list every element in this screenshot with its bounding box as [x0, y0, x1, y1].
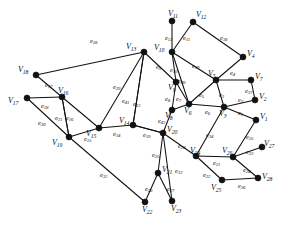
vertex-label-V9: V9	[168, 84, 176, 92]
graph-vertex-V4	[240, 54, 246, 60]
edge-label-e26: e26	[145, 186, 152, 193]
edge-label-e34: e34	[206, 132, 213, 139]
edge-label-e35: e35	[246, 134, 253, 141]
graph-edge-e21	[196, 156, 233, 157]
edge-label-e2: e2	[238, 97, 243, 104]
edge-label-e22: e22	[203, 172, 210, 179]
edge-label-e17: e17	[45, 82, 52, 89]
graph-vertex-V7	[248, 77, 254, 83]
edge-label-e7: e7	[176, 96, 181, 103]
vertex-label-V10: V10	[154, 44, 164, 52]
edge-label-e11: e11	[183, 35, 190, 42]
vertex-label-V1: V1	[260, 113, 268, 121]
edge-label-e5: e5	[199, 92, 204, 99]
vertex-label-V7: V7	[255, 73, 263, 81]
graph-vertex-V12	[190, 19, 196, 25]
vertex-label-V24: V24	[190, 147, 200, 155]
edge-label-e27: e27	[167, 186, 174, 193]
graph-vertex-V13	[141, 49, 147, 55]
vertex-label-V11: V11	[168, 10, 178, 18]
vertex-label-V6: V6	[184, 107, 192, 115]
vertex-label-V19: V19	[52, 139, 62, 147]
vertex-label-V20: V20	[167, 126, 177, 134]
graph-edge-e28	[36, 52, 144, 75]
graph-vertex-V1	[253, 117, 259, 123]
vertex-label-V27: V27	[264, 140, 274, 148]
graph-vertex-V19	[66, 134, 72, 140]
graph-edge-e6	[189, 104, 224, 107]
edge-label-e24: e24	[243, 167, 250, 174]
vertices-layer	[24, 18, 265, 205]
graph-vertex-V18	[33, 72, 39, 78]
edge-label-e14: e14	[113, 131, 120, 138]
edge-label-e12: e12	[165, 35, 172, 42]
edge-label-e40: e40	[178, 78, 185, 85]
edge-label-e42: e42	[158, 118, 165, 125]
graph-edge-e38	[193, 22, 243, 57]
edge-label-e39: e39	[192, 63, 199, 70]
vertex-label-V14: V14	[119, 117, 129, 125]
edge-label-e30: e30	[38, 120, 45, 127]
graph-edge-e41	[133, 52, 144, 125]
graph-canvas	[0, 0, 288, 226]
vertex-label-V3: V3	[219, 110, 227, 118]
graph-edge-e36	[222, 178, 258, 180]
vertex-label-V16: V16	[58, 87, 68, 95]
edge-label-e15: e15	[84, 136, 91, 143]
vertex-label-V18: V18	[18, 66, 28, 74]
edge-label-e32: e32	[100, 172, 107, 179]
vertex-label-V2: V2	[259, 93, 267, 101]
edge-label-e33: e33	[175, 168, 182, 175]
edge-label-e28: e28	[90, 38, 97, 45]
graph-edge-e32	[69, 137, 145, 202]
edge-label-e13: e13	[133, 101, 140, 108]
graph-vertex-V25	[219, 177, 225, 183]
edge-label-e21: e21	[213, 160, 220, 167]
edge-label-e20: e20	[178, 143, 185, 150]
edge-label-e41: e41	[122, 98, 129, 105]
graph-edge-extra-1	[62, 97, 99, 128]
vertex-label-V23: V23	[171, 205, 181, 213]
graph-vertex-V15	[96, 125, 102, 131]
edge-label-e9: e9	[156, 64, 161, 71]
vertex-label-V28: V28	[262, 173, 272, 181]
edge-label-e31: e31	[55, 115, 62, 122]
vertex-label-V5: V5	[208, 70, 216, 78]
edge-label-e37: e37	[245, 88, 252, 95]
edge-label-e25: e25	[152, 152, 159, 159]
vertex-label-V4: V4	[247, 50, 255, 58]
edge-label-e36: e36	[238, 183, 245, 190]
vertex-label-V8: V8	[165, 112, 173, 120]
edge-label-e3: e3	[219, 92, 224, 99]
vertex-label-V22: V22	[142, 206, 152, 214]
edge-label-e29: e29	[113, 84, 120, 91]
edge-label-e1: e1	[238, 110, 243, 117]
vertex-label-V12: V12	[196, 11, 206, 19]
edge-label-e10: e10	[170, 67, 177, 74]
graph-vertex-V2	[252, 97, 258, 103]
graph-vertex-V10	[169, 49, 175, 55]
graph-figure: V1V2V3V4V5V6V7V8V9V10V11V12V13V14V15V16V…	[0, 0, 288, 226]
vertex-label-V13: V13	[126, 43, 136, 51]
edge-label-e18: e18	[41, 103, 48, 110]
graph-vertex-V28	[255, 175, 261, 181]
edge-label-e38: e38	[220, 35, 227, 42]
vertex-label-V17: V17	[8, 97, 18, 105]
edge-label-e16: e16	[66, 115, 73, 122]
vertex-label-V26: V26	[222, 147, 232, 155]
graph-edge-e18	[27, 97, 62, 98]
vertex-label-V21: V21	[162, 166, 172, 174]
edge-label-e8: e8	[165, 96, 170, 103]
graph-vertex-V20	[160, 130, 166, 136]
graph-vertex-V21	[155, 170, 161, 176]
edge-label-e4: e4	[230, 70, 235, 77]
graph-vertex-V14	[130, 122, 136, 128]
edges-layer	[27, 21, 262, 202]
edge-label-e6: e6	[205, 109, 210, 116]
vertex-label-V25: V25	[211, 184, 221, 192]
edge-label-e23: e23	[246, 149, 253, 156]
edge-label-e19: e19	[143, 132, 150, 139]
graph-vertex-V17	[24, 95, 30, 101]
